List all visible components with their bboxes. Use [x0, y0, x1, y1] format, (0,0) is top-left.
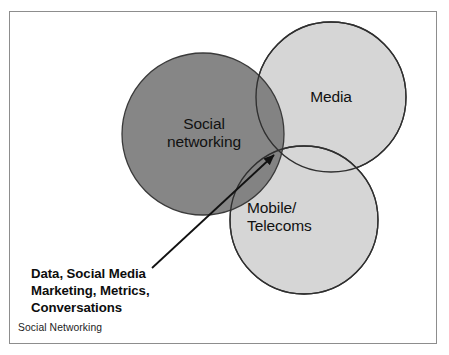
circle-label-social-networking: Social networking — [133, 115, 275, 152]
diagram-page: Social networking Media Mobile/ Telecoms… — [0, 0, 449, 355]
circle-label-media: Media — [278, 88, 384, 106]
footer-title: Social Networking — [18, 322, 102, 333]
annotation-text: Data, Social Media Marketing, Metrics, C… — [31, 266, 231, 317]
circle-label-mobile-telecoms: Mobile/ Telecoms — [247, 199, 369, 236]
